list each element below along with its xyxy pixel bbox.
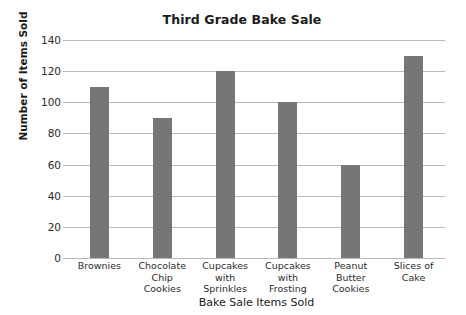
bar xyxy=(341,165,360,258)
x-axis-label: CupcakeswithFrosting xyxy=(252,260,324,295)
y-tick-label: 0 xyxy=(54,252,61,264)
y-tick-label: 100 xyxy=(41,96,61,108)
bar xyxy=(216,71,235,258)
gridline xyxy=(68,165,445,166)
gridline xyxy=(68,258,445,259)
y-tick-label: 40 xyxy=(48,190,61,202)
y-tick-label: 80 xyxy=(48,127,61,139)
gridline xyxy=(68,196,445,197)
gridline xyxy=(68,102,445,103)
y-tick-mark xyxy=(63,227,68,228)
bar xyxy=(404,56,423,258)
x-axis-label: ChocolateChipCookies xyxy=(126,260,198,295)
y-tick-label: 60 xyxy=(48,159,61,171)
chart-title: Third Grade Bake Sale xyxy=(0,12,466,27)
x-axis-label: Slices ofCake xyxy=(378,260,450,283)
y-tick-label: 20 xyxy=(48,221,61,233)
y-tick-mark xyxy=(63,165,68,166)
gridline xyxy=(68,40,445,41)
bar xyxy=(153,118,172,258)
x-axis-label: CupcakeswithSprinkles xyxy=(189,260,261,295)
x-axis-title: Bake Sale Items Sold xyxy=(68,296,445,309)
bar xyxy=(90,87,109,258)
y-axis-title: Number of Items Sold xyxy=(17,0,29,156)
x-axis-label: Brownies xyxy=(63,260,135,272)
bar-chart: Third Grade Bake Sale Number of Items So… xyxy=(0,0,466,315)
y-tick-mark xyxy=(63,102,68,103)
y-tick-mark xyxy=(63,133,68,134)
plot-area: 020406080100120140 xyxy=(68,40,445,258)
y-tick-label: 140 xyxy=(41,34,61,46)
y-tick-mark xyxy=(63,258,68,259)
y-tick-mark xyxy=(63,71,68,72)
x-axis-label: PeanutButterCookies xyxy=(315,260,387,295)
chart-title-text: Third Grade Bake Sale xyxy=(163,12,322,27)
gridline xyxy=(68,227,445,228)
y-tick-label: 120 xyxy=(41,65,61,77)
gridline xyxy=(68,133,445,134)
bar xyxy=(278,102,297,258)
gridline xyxy=(68,71,445,72)
y-tick-mark xyxy=(63,196,68,197)
y-tick-mark xyxy=(63,40,68,41)
